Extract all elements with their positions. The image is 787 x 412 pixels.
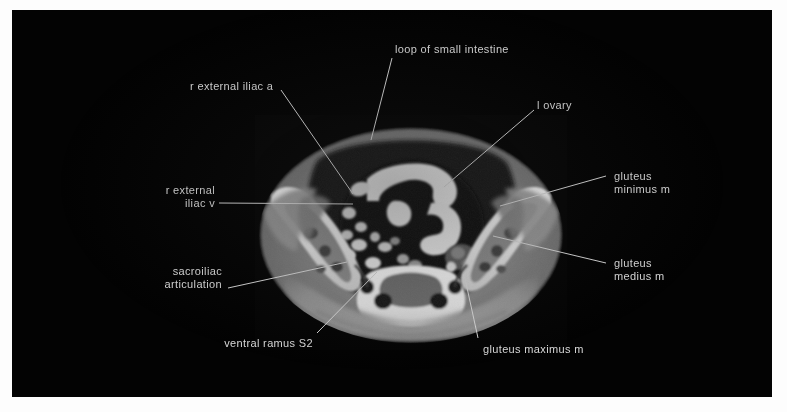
annotation-label-gluteus-maximus-m: gluteus maximus m	[483, 343, 584, 356]
annotation-label-text: gluteus	[614, 257, 664, 270]
annotation-label-loop-of-small-intestine: loop of small intestine	[395, 43, 509, 56]
annotation-label-r-external-iliac-a: r external iliac a	[190, 80, 273, 93]
annotation-label-l-ovary: l ovary	[537, 99, 572, 112]
annotation-label-text: medius m	[614, 270, 664, 283]
ct-scan-image	[255, 115, 567, 350]
annotation-label-text: ventral ramus S2	[224, 337, 313, 350]
annotation-label-sacroiliac-articulation: sacroiliacarticulation	[165, 265, 222, 291]
annotation-label-gluteus-minimus-m: gluteusminimus m	[614, 170, 670, 196]
annotation-label-text: minimus m	[614, 183, 670, 196]
radiograph-plate: loop of small intestiner external iliac …	[12, 10, 772, 397]
annotation-label-r-external-iliac-v: r externaliliac v	[166, 184, 215, 210]
annotation-label-text: l ovary	[537, 99, 572, 112]
figure-page: loop of small intestiner external iliac …	[0, 0, 787, 412]
annotation-label-text: gluteus maximus m	[483, 343, 584, 356]
annotation-label-text: iliac v	[166, 197, 215, 210]
ct-axial-pelvis-svg	[255, 115, 567, 350]
annotation-label-text: articulation	[165, 278, 222, 291]
annotation-label-text: gluteus	[614, 170, 670, 183]
annotation-label-ventral-ramus-s2: ventral ramus S2	[224, 337, 313, 350]
annotation-label-text: sacroiliac	[165, 265, 222, 278]
annotation-label-text: r external	[166, 184, 215, 197]
annotation-label-text: loop of small intestine	[395, 43, 509, 56]
annotation-label-text: r external iliac a	[190, 80, 273, 93]
annotation-label-gluteus-medius-m: gluteusmedius m	[614, 257, 664, 283]
